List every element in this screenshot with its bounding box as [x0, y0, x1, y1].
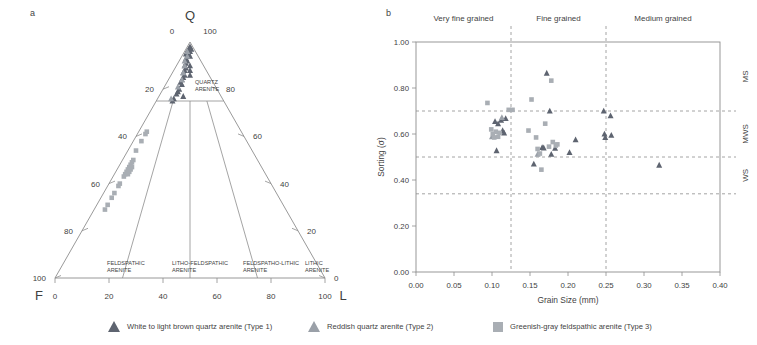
legend-label-type3: Greenish-gray feldspathic arenite (Type … [510, 322, 652, 331]
ternary-data-point [116, 184, 121, 189]
ternary-data-point [109, 195, 114, 200]
ternary-apex-q: Q [185, 8, 195, 23]
scatter-data-point [510, 108, 515, 113]
legend-item-type2: Reddish quartz arenite (Type 2) [308, 321, 493, 332]
scatter-data-point [489, 127, 494, 132]
svg-text:0: 0 [53, 292, 58, 301]
ternary-data-point [139, 139, 144, 144]
square-icon [493, 322, 503, 332]
x-axis-tick-label: 0.05 [446, 281, 462, 290]
svg-text:20: 20 [145, 85, 154, 94]
top-category-label: Very fine grained [433, 14, 493, 23]
scatter-data-point [534, 135, 539, 140]
y-axis-tick-label: 0.60 [394, 130, 410, 139]
triangle-light-icon [308, 321, 320, 332]
svg-text:100: 100 [203, 27, 217, 36]
svg-text:0: 0 [170, 27, 175, 36]
triangle-dark-icon [108, 321, 120, 332]
scatter-data-point [544, 70, 550, 76]
x-axis-tick-label: 0.30 [636, 281, 652, 290]
x-axis-tick-label: 0.25 [598, 281, 614, 290]
scatter-data-point [548, 151, 554, 157]
scatter-svg: 0.000.200.400.600.801.000.000.050.100.15… [368, 0, 757, 310]
svg-text:40: 40 [280, 180, 289, 189]
x-axis-tick-label: 0.40 [712, 281, 728, 290]
y-axis-tick-label: 0.80 [394, 84, 410, 93]
scatter-data-point [608, 132, 614, 138]
svg-text:80: 80 [267, 292, 276, 301]
scatter-data-point [526, 128, 531, 133]
legend-item-type3: Greenish-gray feldspathic arenite (Type … [493, 322, 652, 332]
y-axis-tick-label: 0.40 [394, 176, 410, 185]
x-axis-tick-label: 0.35 [674, 281, 690, 290]
sorting-class-label: MS [741, 71, 750, 83]
scatter-data-point [656, 162, 662, 168]
scatter-data-point [538, 151, 543, 156]
sorting-class-label: MWS [741, 124, 750, 144]
x-axis-tick-label: 0.00 [408, 281, 424, 290]
svg-text:80: 80 [64, 227, 73, 236]
scatter-data-point [547, 144, 552, 149]
figure-legend: White to light brown quartz arenite (Typ… [0, 308, 757, 345]
ternary-field-label: LITHO-FELDSPATHICARENITE [172, 260, 228, 273]
y-axis-tick-label: 0.20 [394, 222, 410, 231]
scatter-data-point [573, 137, 579, 143]
svg-text:40: 40 [159, 292, 168, 301]
svg-text:60: 60 [91, 180, 100, 189]
x-axis-title: Grain Size (mm) [538, 295, 599, 305]
y-axis-tick-label: 0.00 [394, 268, 410, 277]
scatter-data-point [547, 108, 553, 114]
scatter-data-point [543, 121, 548, 126]
y-axis-title: Sorting (σ) [376, 137, 386, 177]
y-axis-tick-label: 1.00 [394, 38, 410, 47]
ternary-field-label: FELDSPATHO-LITHICARENITE [243, 260, 299, 273]
scatter-data-point [549, 78, 554, 83]
legend-item-type1: White to light brown quartz arenite (Typ… [108, 321, 308, 332]
svg-text:60: 60 [253, 132, 262, 141]
ternary-data-point [105, 203, 110, 208]
ternary-field-label: LITHICARENITE [305, 260, 330, 273]
ternary-data-point [112, 191, 117, 196]
ternary-field-label: QUARTZARENITE [195, 79, 220, 92]
svg-text:0: 0 [334, 274, 339, 283]
scatter-data-point [535, 147, 540, 152]
ternary-apex-l: L [339, 288, 346, 303]
ternary-data-point [180, 93, 186, 99]
ternary-svg: QFL010020406080100806040200020406080100Q… [0, 0, 380, 310]
scatter-data-point [567, 149, 573, 155]
scatter-data-point [485, 101, 490, 106]
ternary-data-point [143, 132, 148, 137]
svg-text:80: 80 [226, 85, 235, 94]
legend-label-type1: White to light brown quartz arenite (Typ… [127, 322, 272, 331]
top-category-label: Medium grained [634, 14, 691, 23]
ternary-data-point [126, 172, 131, 177]
svg-text:20: 20 [105, 292, 114, 301]
svg-text:100: 100 [33, 274, 47, 283]
scatter-data-point [608, 112, 614, 118]
ternary-data-point [134, 148, 139, 153]
x-axis-tick-label: 0.10 [484, 281, 500, 290]
ternary-field-label: FELDSPATHICARENITE [107, 260, 145, 273]
scatter-data-point [531, 161, 537, 167]
scatter-data-point [529, 97, 534, 102]
legend-label-type2: Reddish quartz arenite (Type 2) [327, 322, 433, 331]
svg-text:100: 100 [318, 292, 332, 301]
grain-size-sorting-panel: 0.000.200.400.600.801.000.000.050.100.15… [368, 0, 757, 310]
scatter-data-point [555, 142, 560, 147]
top-category-label: Fine grained [536, 14, 580, 23]
scatter-data-point [497, 131, 502, 136]
ternary-data-point [103, 207, 108, 212]
ternary-apex-f: F [35, 288, 43, 303]
svg-text:60: 60 [213, 292, 222, 301]
scatter-data-point [499, 114, 505, 120]
svg-text:40: 40 [118, 132, 127, 141]
figure-container: a b QFL010020406080100806040200020406080… [0, 0, 757, 345]
scatter-data-point [539, 167, 544, 172]
sorting-class-label: WS [741, 169, 750, 182]
x-axis-tick-label: 0.20 [560, 281, 576, 290]
svg-text:20: 20 [307, 227, 316, 236]
x-axis-tick-label: 0.15 [522, 281, 538, 290]
ternary-data-point [122, 174, 127, 179]
ternary-diagram-panel: QFL010020406080100806040200020406080100Q… [0, 0, 380, 310]
scatter-data-point [494, 147, 500, 153]
